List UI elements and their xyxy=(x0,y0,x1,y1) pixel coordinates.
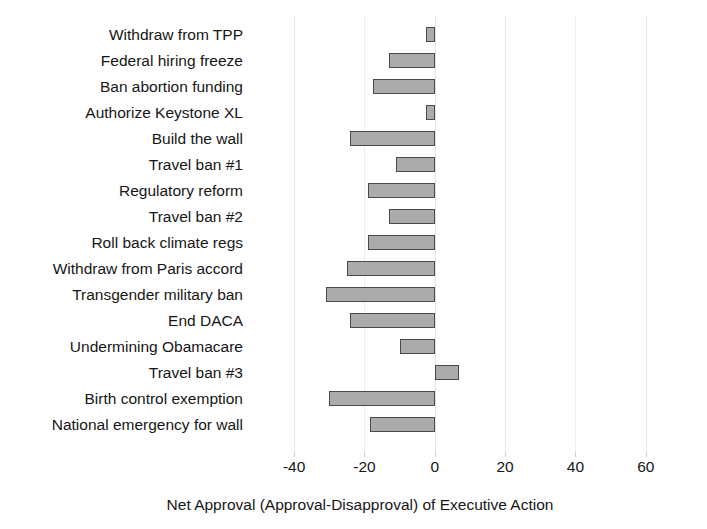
category-label: End DACA xyxy=(0,312,243,330)
category-label: Birth control exemption xyxy=(0,390,243,408)
x-tick-mark xyxy=(646,452,647,457)
category-label: Travel ban #1 xyxy=(0,156,243,174)
bar xyxy=(389,209,435,224)
category-label: Undermining Obamacare xyxy=(0,338,243,356)
category-label: Travel ban #2 xyxy=(0,208,243,226)
plot-area xyxy=(266,16,688,452)
bar xyxy=(329,391,435,406)
x-tick-label: 40 xyxy=(567,458,584,476)
bar xyxy=(400,339,435,354)
bar xyxy=(370,417,435,432)
x-tick-label: 20 xyxy=(497,458,514,476)
category-label: Travel ban #3 xyxy=(0,364,243,382)
x-axis: -40-200204060 xyxy=(266,452,688,482)
bar xyxy=(389,53,435,68)
x-tick-label: 0 xyxy=(430,458,439,476)
gridline--40 xyxy=(294,16,295,452)
x-axis-title: Net Approval (Approval-Disapproval) of E… xyxy=(0,495,707,515)
x-tick-label: -40 xyxy=(283,458,305,476)
gridline-0 xyxy=(435,16,436,452)
x-tick-mark xyxy=(435,452,436,457)
gridline-40 xyxy=(575,16,576,452)
bar xyxy=(350,131,434,146)
category-label: Withdraw from Paris accord xyxy=(0,260,243,278)
bar xyxy=(326,287,435,302)
bar xyxy=(347,261,435,276)
bar xyxy=(426,105,435,120)
category-label: Withdraw from TPP xyxy=(0,26,243,44)
category-label: Roll back climate regs xyxy=(0,234,243,252)
x-tick-mark xyxy=(575,452,576,457)
category-label: Build the wall xyxy=(0,130,243,148)
category-label: Authorize Keystone XL xyxy=(0,104,243,122)
gridline-20 xyxy=(505,16,506,452)
x-tick-mark xyxy=(364,452,365,457)
gridline--20 xyxy=(364,16,365,452)
bar xyxy=(350,313,434,328)
x-tick-mark xyxy=(505,452,506,457)
category-label: National emergency for wall xyxy=(0,416,243,434)
bar xyxy=(435,365,460,380)
x-tick-label: 60 xyxy=(637,458,654,476)
category-label: Ban abortion funding xyxy=(0,78,243,96)
bar xyxy=(373,79,435,94)
category-label: Transgender military ban xyxy=(0,286,243,304)
category-label: Regulatory reform xyxy=(0,182,243,200)
gridline-60 xyxy=(646,16,647,452)
bar xyxy=(396,157,435,172)
category-label: Federal hiring freeze xyxy=(0,52,243,70)
bar xyxy=(368,183,435,198)
x-tick-label: -20 xyxy=(353,458,375,476)
bar xyxy=(426,27,435,42)
x-tick-mark xyxy=(294,452,295,457)
bar xyxy=(368,235,435,250)
category-axis: Withdraw from TPPFederal hiring freezeBa… xyxy=(0,22,243,446)
net-approval-bar-chart: Withdraw from TPPFederal hiring freezeBa… xyxy=(0,0,707,529)
